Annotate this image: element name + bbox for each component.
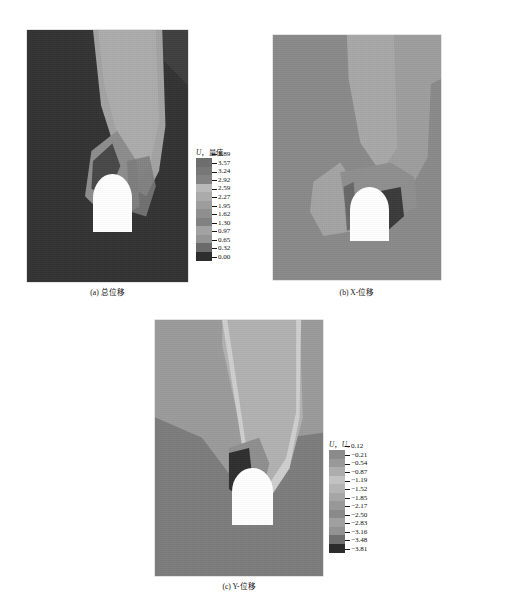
legend-tick-label: −0.54 [351,460,367,467]
legend-tick-mark [212,180,217,181]
legend-tick-mark [345,523,350,524]
legend-tick-label: −1.85 [351,495,367,502]
legend-tick-row: −3.81 [345,549,367,558]
legend-tick-label: 0.97 [218,228,230,235]
legend-swatch [196,192,212,201]
legend-tick-label: 2.92 [218,177,230,184]
legend-swatch [329,501,345,510]
legend-swatch [329,510,345,519]
legend-tick-label: 3.57 [218,160,230,167]
panel-a: U，量值 3.893.573.242.922.592.271.951.621.3… [0,0,253,306]
legend-tick-label: −3.81 [351,546,367,553]
legend-tick-mark [212,223,217,224]
legend-swatch [196,218,212,227]
tunnel-opening-b [350,187,389,241]
legend-title-sep-a: ， [201,148,208,157]
legend-tick-mark [345,489,350,490]
legend-tick-mark [212,248,217,249]
legend-swatch [196,235,212,244]
legend-swatch [196,184,212,193]
legend-tick-mark [345,515,350,516]
legend-tick-label: 2.27 [218,194,230,201]
legend-swatch [196,158,212,167]
legend-scale-a: 3.893.573.242.922.592.271.951.621.300.97… [196,158,230,266]
legend-tick-mark [212,257,217,258]
legend-tick-label: 0.65 [218,237,230,244]
legend-title-sep-c: ， [334,440,341,449]
legend-tick-label: −2.17 [351,503,367,510]
caption-c-text: (c) Y-位移 [222,582,255,591]
legend-swatch [196,252,212,261]
contour-plot-a [27,30,188,282]
legend-tick-mark [345,506,350,507]
legend-ticks-c: 0.12−0.21−0.54−0.87−1.19−1.52−1.85−2.17−… [345,450,367,558]
legend-tick-mark [212,231,217,232]
legend-tick-label: 3.89 [218,151,230,158]
contour-plot-c [155,320,323,576]
legend-colorbar-c [329,450,345,558]
legend-swatch [196,175,212,184]
legend-tick-label: 2.59 [218,185,230,192]
legend-tick-label: −1.52 [351,486,367,493]
legend-swatch [329,467,345,476]
legend-swatch [329,450,345,459]
legend-tick-label: 1.62 [218,211,230,218]
legend-swatch [329,484,345,493]
legend-swatch [196,226,212,235]
legend-tick-mark [212,163,217,164]
legend-colorbar-a [196,158,212,266]
legend-tick-label: 0.12 [351,443,363,450]
legend-tick-label: 1.30 [218,220,230,227]
legend-swatch [329,535,345,544]
legend-tick-label: −2.83 [351,520,367,527]
legend-c: U，U₂ 0.12−0.21−0.54−0.87−1.19−1.52−1.85−… [329,440,367,558]
legend-swatch [329,459,345,468]
legend-ticks-a: 3.893.573.242.922.592.271.951.621.300.97… [212,158,230,266]
legend-tick-mark [345,540,350,541]
legend-tick-mark [212,197,217,198]
legend-tick-mark [345,498,350,499]
legend-tick-label: −3.16 [351,529,367,536]
legend-swatch [329,493,345,502]
caption-b: (b) X-位移 [273,288,441,298]
tunnel-opening-a [93,174,132,232]
legend-swatch [196,201,212,210]
legend-swatch [329,476,345,485]
legend-swatch [329,527,345,536]
legend-tick-mark [345,464,350,465]
panel-b: U，U₁ 1.291.050.810.570.320.08−0.16−0.40−… [253,0,505,306]
caption-a: (a) 总位移 [27,288,188,298]
legend-tick-mark [212,154,217,155]
legend-a: U，量值 3.893.573.242.922.592.271.951.621.3… [196,148,230,266]
legend-tick-mark [212,214,217,215]
legend-tick-mark [345,446,350,447]
legend-tick-mark [345,549,350,550]
panel-c: U，U₂ 0.12−0.21−0.54−0.87−1.19−1.52−1.85−… [120,306,385,613]
legend-tick-mark [345,472,350,473]
legend-tick-mark [212,206,217,207]
legend-tick-mark [212,172,217,173]
legend-tick-mark [345,455,350,456]
legend-tick-mark [212,240,217,241]
caption-c: (c) Y-位移 [155,582,323,592]
legend-tick-mark [212,189,217,190]
legend-tick-row: 0.00 [212,257,230,266]
legend-tick-mark [345,532,350,533]
legend-swatch [329,544,345,553]
legend-swatch [196,243,212,252]
legend-tick-label: 3.24 [218,168,230,175]
legend-swatch [329,518,345,527]
legend-scale-c: 0.12−0.21−0.54−0.87−1.19−1.52−1.85−2.17−… [329,450,367,558]
tunnel-opening-c [232,468,272,524]
legend-tick-mark [345,481,350,482]
legend-swatch [196,209,212,218]
legend-tick-label: −0.21 [351,452,367,459]
legend-tick-label: −2.50 [351,512,367,519]
caption-b-text: (b) X-位移 [340,288,375,297]
legend-tick-label: 0.00 [218,254,230,261]
legend-tick-label: −1.19 [351,477,367,484]
legend-tick-label: −3.48 [351,537,367,544]
legend-swatch [196,167,212,176]
legend-tick-label: 0.32 [218,245,230,252]
legend-tick-label: 1.95 [218,203,230,210]
